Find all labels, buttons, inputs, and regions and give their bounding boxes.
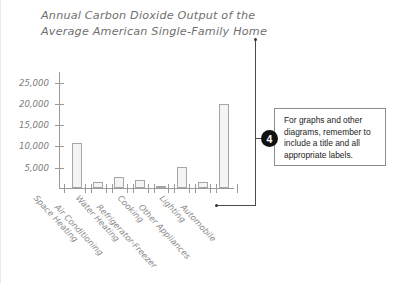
callout-text: For graphs and other diagrams, remember … [284,115,378,161]
x-tick-4 [148,184,149,193]
page-title: Annual Carbon Dioxide Output of the Aver… [41,8,281,40]
bar-cooking [156,186,166,188]
x-tick-3 [127,184,128,193]
y-tick-5000: 5,000 [55,168,64,169]
x-tick-1 [85,184,86,193]
x-tick-5 [168,184,169,193]
y-axis-line [59,72,60,189]
bar-lighting [198,182,208,188]
x-label-refrigerator-freezer: Refrigerator-Freezer [95,202,160,270]
y-tick-label-5000: 5,000 [24,163,49,173]
x-tick-7 [210,184,211,193]
x-label-space-heating: Space Heating [32,193,81,244]
bar-water-heating [114,177,124,188]
x-tick-end-6 [216,184,217,193]
y-tick-10000: 10,000 [55,146,64,147]
y-tick-label-15000: 15,000 [19,120,49,130]
leader-dot-axis-labels [215,204,218,207]
y-tick-25000: 25,000 [55,83,64,84]
x-label-cooking: Cooking [116,193,146,224]
x-tick-end-4 [174,184,175,193]
bar-automobile [219,104,229,188]
callout-leader-line [255,40,256,206]
x-tick-6 [189,184,190,193]
x-tick-end-0 [91,184,92,193]
x-tick-end-1 [112,184,113,193]
x-label-lighting: Lighting [157,193,187,224]
x-label-other-appliances: Other Appliances [136,202,192,261]
bar-refrigerator-freezer [135,180,145,188]
y-tick-20000: 20,000 [55,104,64,105]
x-tick-end-3 [154,184,155,193]
y-tick-label-25000: 25,000 [19,78,49,88]
leader-line-bottom [216,205,256,206]
x-tick-2 [106,184,107,193]
callout-box: For graphs and other diagrams, remember … [274,108,386,166]
chart-plot-area: 5,000 10,000 15,000 20,000 25,000 [59,72,234,189]
x-label-air-conditioning: Air Conditioning [53,202,106,257]
figure-page: Annual Carbon Dioxide Output of the Aver… [0,0,399,283]
x-tick-0 [64,184,65,193]
callout-number-badge: 4 [261,130,278,147]
x-tick-end-5 [195,184,196,193]
x-tick-end-7 [237,184,238,193]
x-label-automobile: Automobile [178,202,218,243]
x-tick-end-2 [133,184,134,193]
bar-space-heating [72,143,82,188]
y-tick-label-10000: 10,000 [19,141,49,151]
leader-dot-title [254,38,257,41]
bar-air-conditioning [93,182,103,188]
y-tick-label-20000: 20,000 [19,99,49,109]
x-label-water-heating: Water Heating [74,193,122,244]
y-tick-15000: 15,000 [55,125,64,126]
bar-other-appliances [177,167,187,188]
